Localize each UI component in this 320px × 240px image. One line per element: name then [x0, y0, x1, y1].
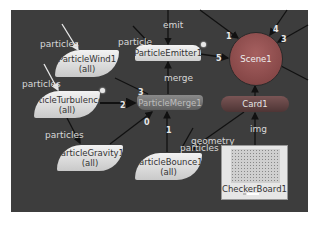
node-title: ParticleWind1 [58, 54, 116, 64]
node-subtitle: (all) [59, 105, 76, 115]
input-label-particles: particles [22, 79, 61, 89]
input-label-particles: particles [40, 39, 79, 49]
input-label-particles: particles [45, 130, 84, 140]
input-label-emit: emit [163, 20, 183, 30]
node-title: ParticleMerge1 [138, 98, 201, 108]
node-title: Card1 [242, 99, 267, 109]
checkerboard-thumbnail [231, 149, 280, 183]
node-checkerboard[interactable]: CheckerBoard1 [221, 145, 288, 200]
node-title: ParticleEmitter1 [135, 48, 201, 58]
port-number: 1 [166, 126, 172, 135]
node-title: ParticleBounce1 [135, 157, 202, 167]
node-title: ParticleTurbulence1 [34, 95, 100, 105]
input-label-img: img [250, 124, 267, 134]
modified-indicator-icon [100, 88, 105, 93]
port-number: 0 [144, 118, 150, 127]
node-subtitle: (all) [79, 64, 96, 74]
input-label-particles: particles [180, 143, 219, 153]
node-title: Scene1 [240, 54, 271, 64]
node-subtitle: (all) [160, 167, 177, 177]
input-label-merge: merge [164, 73, 193, 83]
port-number: 2 [120, 101, 126, 110]
port-number: 1 [226, 32, 232, 41]
node-card[interactable]: Card1 [221, 96, 289, 112]
port-number: 3 [281, 35, 287, 44]
node-particle-emitter[interactable]: ParticleEmitter1 [135, 45, 201, 61]
modified-indicator-icon [201, 42, 206, 47]
port-number: 5 [216, 54, 222, 63]
node-subtitle: (all) [82, 158, 99, 168]
node-status-bar [243, 193, 246, 195]
node-particle-merge[interactable]: ParticleMerge1 [137, 95, 203, 110]
node-title: ParticleGravity1 [57, 148, 123, 158]
node-status-bar [247, 193, 259, 195]
port-number: 4 [273, 25, 279, 34]
node-scene[interactable]: Scene1 [229, 32, 283, 86]
